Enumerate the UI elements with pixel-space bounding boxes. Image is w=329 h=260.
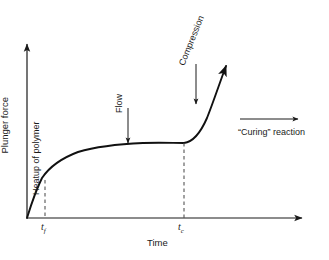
x-tick-label-tf: tf xyxy=(41,222,46,235)
y-axis-label: Plunger force xyxy=(0,97,10,154)
x-axis-label: Time xyxy=(147,238,168,248)
annotation-curing-reaction: “Curing” reaction xyxy=(238,128,305,137)
x-tick-label-tc: tc xyxy=(178,222,184,235)
x-tick-tf-subscript: f xyxy=(44,227,46,235)
x-tick-tc-subscript: c xyxy=(181,227,184,235)
annotation-flow: Flow xyxy=(115,94,124,113)
y-axis-label-text: Plunger force xyxy=(0,97,10,154)
annotation-heatup-of-polymer: Heatup of polymer xyxy=(32,121,41,195)
chart-figure: Plunger force Time Heatup of polymer Flo… xyxy=(0,0,329,260)
